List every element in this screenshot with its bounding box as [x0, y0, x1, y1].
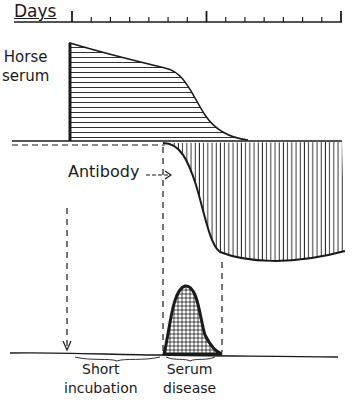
serum-disease-label: Serum disease: [163, 360, 216, 398]
short-incubation-label: Short incubation: [64, 360, 138, 398]
diagram-canvas: [0, 0, 358, 410]
short-label-line2: incubation: [64, 379, 138, 398]
antibody-label: Antibody: [68, 164, 139, 180]
horse-label-line2: serum: [2, 67, 49, 86]
antibody-area: [163, 142, 345, 261]
short-label-line1: Short: [64, 360, 138, 379]
serum-label-line1: Serum: [163, 360, 216, 379]
horse-serum-label: Horse serum: [2, 48, 49, 86]
serum-disease-peak: [164, 286, 222, 354]
days-axis: [14, 11, 342, 22]
horse-serum-area: [70, 43, 248, 141]
serum-label-line2: disease: [163, 379, 216, 398]
axis-label-days: Days: [14, 3, 56, 20]
serum-sickness-diagram: Days Horse serum Antibody Short incubati…: [0, 0, 358, 410]
horse-label-line1: Horse: [2, 48, 49, 67]
